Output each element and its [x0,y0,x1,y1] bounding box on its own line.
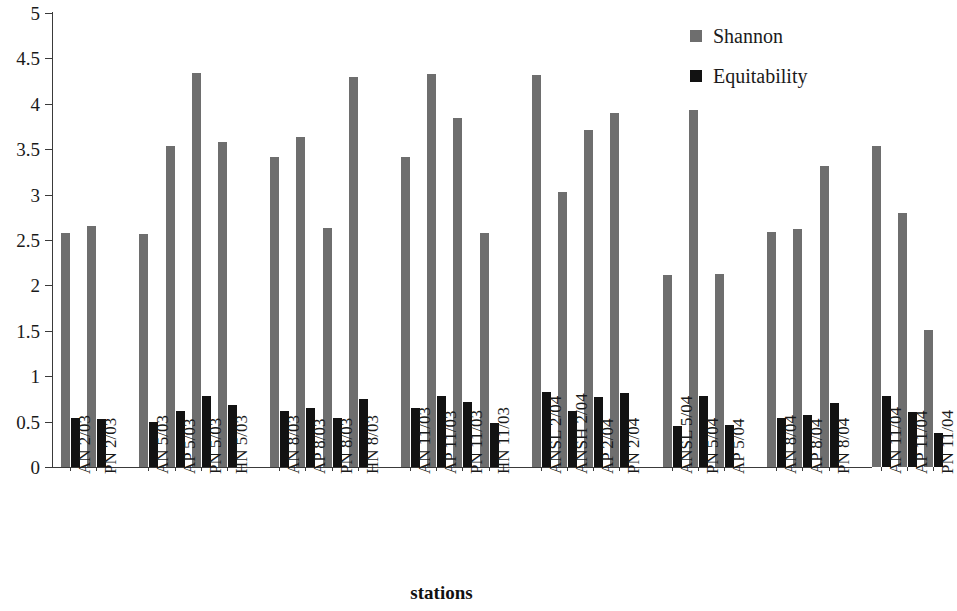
x-axis-label: AN 11/03 [416,407,433,474]
y-axis-tick [45,467,53,468]
y-axis-label: 3 [0,186,40,205]
y-axis-label: 5 [0,4,40,23]
x-axis-tick [489,467,490,471]
bar-shannon [192,73,201,467]
legend-item-equitability: Equitability [690,66,870,86]
x-axis-label: AP 5/03 [181,418,198,474]
bar-shannon [401,157,410,467]
x-axis-tick [724,467,725,471]
y-axis-tick [45,104,53,105]
y-axis-label: 0 [0,458,40,477]
y-axis-tick [45,13,53,14]
x-axis-tick [593,467,594,471]
y-axis-tick [45,149,53,150]
x-axis-label: AN 2/03 [76,415,93,474]
x-axis-tick [358,467,359,471]
bar-shannon [532,75,541,467]
x-axis-tick [881,467,882,471]
x-axis-tick [227,467,228,471]
y-axis-label: 4.5 [0,49,40,68]
x-axis-label: AN 5/03 [154,415,171,474]
x-axis-tick [175,467,176,471]
y-axis-label: 2 [0,276,40,295]
y-axis-tick [45,58,53,59]
bar-shannon [139,234,148,467]
x-axis-label: AP 11/04 [913,411,930,474]
legend-label-equitability: Equitability [713,66,807,86]
x-axis-tick [70,467,71,471]
x-axis-tick [619,467,620,471]
x-axis-label: HN 8/03 [364,415,381,474]
x-axis-tick [541,467,542,471]
legend-item-shannon: Shannon [690,26,870,46]
x-axis-label: AN 8/04 [782,415,799,474]
x-axis-tick [567,467,568,471]
y-axis-tick [45,422,53,423]
x-axis-tick [829,467,830,471]
x-axis-label: HN 11/03 [495,407,512,474]
x-axis-label: ANSH 2/04 [573,393,590,474]
x-axis-label: HN 5/03 [233,415,250,474]
x-axis-tick [332,467,333,471]
x-axis-label: PN 11/03 [468,410,485,474]
x-axis-label: AN 8/03 [285,415,302,474]
x-axis-label: PN 2/03 [102,418,119,474]
y-axis-label: 3.5 [0,140,40,159]
x-axis-tick [305,467,306,471]
x-axis-tick [279,467,280,471]
x-axis-label: ANSL 5/04 [678,396,695,474]
y-axis-label: 2.5 [0,231,40,250]
legend-label-shannon: Shannon [713,26,783,46]
x-axis-tick [907,467,908,471]
x-axis-title: stations [0,582,883,604]
y-axis-label: 1.5 [0,322,40,341]
x-axis-label: PN 5/04 [704,418,721,474]
x-axis-label: AP 2/04 [599,418,616,474]
x-axis-tick [672,467,673,471]
bar-shannon [270,157,279,467]
x-axis-label: AP 11/03 [442,411,459,474]
x-axis-label: ANSL 2/04 [547,396,564,474]
y-axis-tick [45,331,53,332]
y-axis-tick [45,376,53,377]
x-axis-tick [201,467,202,471]
bar-shannon [349,77,358,467]
chart-legend: Shannon Equitability [690,26,870,106]
x-axis-label: PN 2/04 [625,418,642,474]
bar-shannon [61,233,70,467]
bar-shannon [767,232,776,467]
y-axis-tick [45,195,53,196]
bar-shannon [663,275,672,467]
x-axis-tick [436,467,437,471]
x-axis-label: PN 11/04 [939,410,956,474]
y-axis-label: 4 [0,95,40,114]
y-axis-tick [45,240,53,241]
x-axis-label: PN 8/03 [338,418,355,474]
x-axis-label: PN 8/04 [835,418,852,474]
x-axis-tick [148,467,149,471]
legend-swatch-equitability [690,70,702,82]
x-axis-tick [462,467,463,471]
x-axis-label: AN 11/04 [887,407,904,474]
x-axis-tick [96,467,97,471]
x-axis-tick [410,467,411,471]
x-axis-label: AP 8/04 [808,418,825,474]
x-axis-label: AP 8/03 [311,418,328,474]
y-axis-tick [45,285,53,286]
x-axis-tick [776,467,777,471]
bar-shannon [872,146,881,467]
y-axis-label: 1 [0,367,40,386]
legend-swatch-shannon [690,30,702,42]
y-axis-label: 0.5 [0,413,40,432]
x-axis-tick [802,467,803,471]
x-axis-label: PN 5/03 [207,418,224,474]
bar-shannon [610,113,619,467]
x-axis-tick [933,467,934,471]
x-axis-tick [698,467,699,471]
x-axis-label: AP 5/04 [730,418,747,474]
